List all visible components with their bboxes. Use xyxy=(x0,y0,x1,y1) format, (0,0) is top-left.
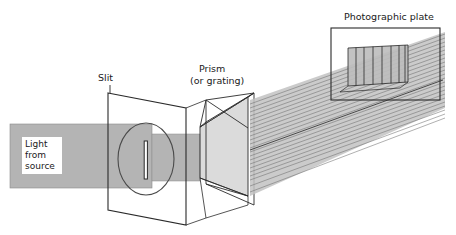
beam-slit-to-prism xyxy=(152,134,200,181)
source-label-line2: from xyxy=(25,150,46,160)
slit-label: Slit xyxy=(98,72,113,83)
prism-label-line1: Prism xyxy=(199,63,225,74)
source-label-line3: source xyxy=(25,161,55,171)
diagram-canvas: Light from source Slit xyxy=(0,0,456,235)
source-label-line1: Light xyxy=(25,139,48,149)
spectroscope-diagram: Light from source Slit xyxy=(0,0,456,235)
dispersed-beam xyxy=(250,32,445,196)
beam-midsection xyxy=(152,134,200,181)
photographic-plate-label: Photographic plate xyxy=(344,11,434,22)
light-source-beam: Light from source xyxy=(10,124,152,188)
slit-aperture xyxy=(144,141,147,179)
prism-label-line2: (or grating) xyxy=(190,75,244,86)
